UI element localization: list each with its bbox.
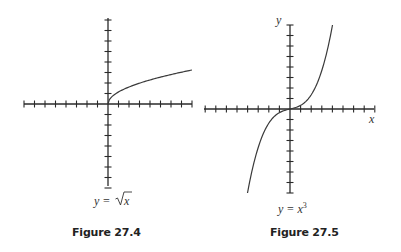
equation-label: y = (93, 194, 110, 208)
equation-label: y = x3 (277, 201, 307, 216)
sqrt-curve (108, 70, 192, 104)
figure-27-5-caption: Figure 27.5 (270, 226, 339, 239)
radicand: x (123, 194, 130, 208)
figure-27-5-graph: y x y = x3 (204, 13, 375, 216)
figure-27-4-graph: y = x (24, 18, 192, 208)
figures-canvas: y = x y x y = x3 (0, 0, 401, 252)
figure-27-4-caption: Figure 27.4 (72, 226, 141, 239)
y-axis-label: y (275, 13, 282, 27)
x-axis-label: x (368, 112, 375, 126)
